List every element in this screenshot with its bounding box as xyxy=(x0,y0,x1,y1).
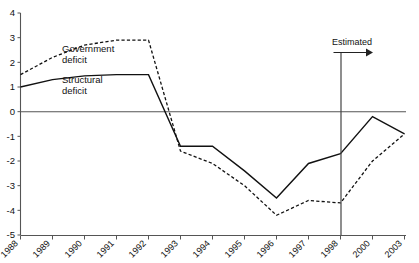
x-tick-label: 2000 xyxy=(351,238,372,259)
x-tick-label: 1995 xyxy=(223,238,244,259)
x-tick-label: 1988 xyxy=(0,238,20,259)
y-tick-label: -3 xyxy=(7,180,15,191)
y-tick-label: 1 xyxy=(10,81,15,92)
y-tick-label: -2 xyxy=(7,155,15,166)
series-government-deficit xyxy=(21,40,405,215)
y-tick-label: 4 xyxy=(10,7,15,18)
y-tick-label: 3 xyxy=(10,32,15,43)
x-tick-label: 1994 xyxy=(191,238,212,259)
x-tick-label: 1989 xyxy=(31,238,52,259)
estimated-label: Estimated xyxy=(332,37,372,47)
chart-canvas: 43210-1-2-3-4-5 198819891990199119921993… xyxy=(0,0,419,263)
y-axis-tick-labels: 43210-1-2-3-4-5 xyxy=(7,7,15,240)
y-tick-label: 2 xyxy=(10,57,15,68)
y-tick-label: 0 xyxy=(10,106,15,117)
x-axis-ticks xyxy=(21,236,405,240)
government-deficit-label-line1: Government xyxy=(62,43,115,54)
estimated-marker-group: Estimated xyxy=(332,37,373,235)
x-tick-label: 2003 xyxy=(383,238,404,259)
y-tick-label: -5 xyxy=(7,229,15,240)
x-tick-label: 1997 xyxy=(287,238,308,259)
x-tick-label: 1998 xyxy=(319,238,340,259)
x-tick-label: 1991 xyxy=(95,238,116,259)
structural-deficit-annotation: Structural deficit xyxy=(62,74,103,96)
x-axis-tick-labels: 1988198919901991199219931994199519961997… xyxy=(0,238,404,259)
x-tick-label: 1990 xyxy=(63,238,84,259)
x-tick-label: 1992 xyxy=(127,238,148,259)
government-deficit-annotation: Government deficit xyxy=(62,43,115,65)
deficit-line-chart: 43210-1-2-3-4-5 198819891990199119921993… xyxy=(0,0,419,263)
structural-deficit-label-line1: Structural xyxy=(62,74,103,85)
estimated-arrow-head xyxy=(366,49,373,57)
y-tick-label: -1 xyxy=(7,131,15,142)
structural-deficit-label-line2: deficit xyxy=(62,85,87,96)
y-tick-label: -4 xyxy=(7,205,15,216)
government-deficit-label-line2: deficit xyxy=(62,54,87,65)
x-tick-label: 1993 xyxy=(159,238,180,259)
x-tick-label: 1996 xyxy=(255,238,276,259)
